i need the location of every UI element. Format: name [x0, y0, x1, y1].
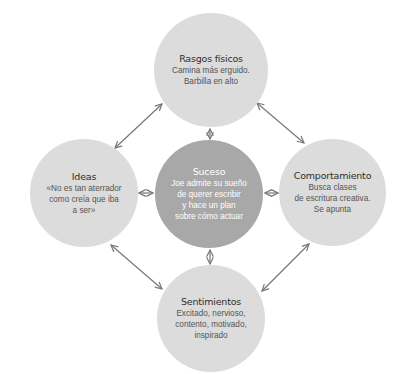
node-body: Busca clases de escritura creativa. Se a…	[295, 182, 371, 215]
node-body: Camina más erguido. Barbilla en alto	[172, 65, 250, 87]
relationship-diagram: Rasgos físicos Camina más erguido. Barbi…	[0, 0, 408, 374]
node-title: Suceso	[193, 166, 226, 177]
node-title: Ideas	[72, 171, 96, 182]
node-sentimientos: Sentimientos Excitado, nervioso, content…	[157, 265, 265, 372]
node-body: Excitado, nervioso, contento, motivado, …	[175, 308, 246, 341]
arrow-left-bottom	[111, 245, 162, 289]
node-suceso: Suceso Joe admite su sueño de querer esc…	[155, 140, 263, 248]
node-body: Joe admite su sueño de querer escribir y…	[171, 178, 247, 222]
node-title: Comportamiento	[294, 170, 372, 181]
node-body: «No es tan aterrador como creía que iba …	[46, 183, 121, 216]
node-title: Rasgos físicos	[179, 53, 243, 64]
arrow-left-top	[115, 104, 162, 148]
node-rasgos-fisicos: Rasgos físicos Camina más erguido. Barbi…	[154, 13, 268, 127]
node-title: Sentimientos	[181, 296, 241, 307]
node-comportamiento: Comportamiento Busca clases de escritura…	[279, 139, 386, 246]
arrow-top-right	[257, 103, 304, 143]
node-ideas: Ideas «No es tan aterrador como creía qu…	[30, 139, 138, 247]
arrow-bottom-right	[262, 244, 309, 291]
